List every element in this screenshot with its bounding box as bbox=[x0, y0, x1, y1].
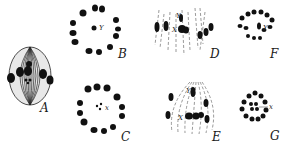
panel-label-d: D bbox=[209, 47, 220, 61]
x-chromosome-label-e: X bbox=[177, 114, 184, 122]
panel-label-b: B bbox=[117, 47, 127, 61]
x-chromosome-label-c: x bbox=[105, 104, 109, 112]
x-chromosome-label-d: X bbox=[171, 26, 178, 34]
panel-label-e: E bbox=[211, 130, 221, 144]
panel-d: Y X D bbox=[155, 8, 221, 61]
chromosomes-f bbox=[238, 10, 275, 41]
panel-label-c: C bbox=[121, 130, 130, 144]
panel-label-a: A bbox=[39, 101, 49, 115]
x-chromosome-label-g: x bbox=[269, 103, 273, 111]
chromosomes-b bbox=[70, 5, 122, 56]
chromosomes-g bbox=[240, 91, 269, 122]
chromosome-figure-plate: A Y B bbox=[0, 0, 291, 145]
panel-e: Y X E bbox=[166, 82, 222, 144]
y-chromosome-label-b: Y bbox=[99, 24, 105, 32]
panel-g: x G bbox=[240, 91, 281, 144]
panel-label-g: G bbox=[270, 129, 280, 143]
chromosomes-c bbox=[77, 84, 125, 135]
panel-f: Y F bbox=[238, 10, 280, 62]
panel-a: A bbox=[7, 47, 54, 115]
chromosomes-d bbox=[155, 14, 214, 39]
panel-c: x C bbox=[77, 84, 130, 145]
panel-label-f: F bbox=[269, 47, 279, 61]
panel-b: Y B bbox=[70, 5, 128, 62]
